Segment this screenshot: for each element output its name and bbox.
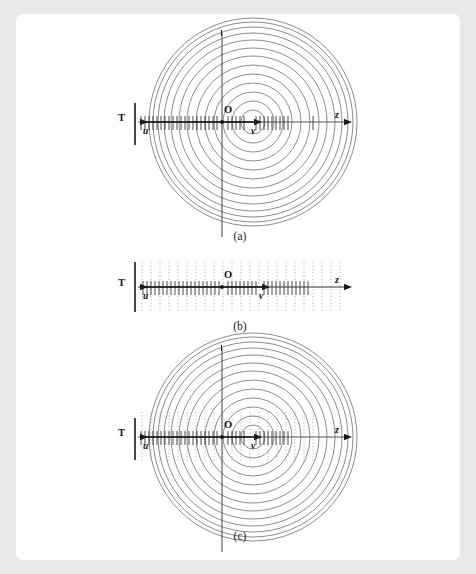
figure-diagram <box>0 0 476 574</box>
panel-a-graphic <box>135 18 357 237</box>
panel-a-screen-label: T <box>118 112 125 123</box>
panel-a-hatch-right <box>228 116 288 130</box>
panel-b-graphic <box>135 262 344 312</box>
panel-a-origin-dot <box>220 120 224 124</box>
panel-a-u-label: u <box>143 126 148 136</box>
panel-b-u-label: u <box>143 291 148 301</box>
panel-c-v-label: v <box>251 441 255 451</box>
panel-c-graphic <box>135 333 357 552</box>
panel-a-caption: (a) <box>200 230 280 242</box>
panel-b-screen-label: T <box>118 277 125 288</box>
panel-b-v-label: v <box>259 291 263 301</box>
panel-b-caption: (b) <box>200 320 280 332</box>
panel-b-origin-dot <box>220 285 224 289</box>
panel-b-z-label: z <box>335 274 339 285</box>
panel-c-z-label: z <box>335 424 339 435</box>
panel-c-origin-label: O <box>224 419 232 430</box>
panel-a-z-label: z <box>335 109 339 120</box>
panel-c-u-label: u <box>143 441 148 451</box>
panel-c-origin-dot <box>220 435 224 439</box>
panel-c-screen-label: T <box>118 427 125 438</box>
panel-a-v-label: v <box>251 126 255 136</box>
panel-b-hatch <box>143 281 308 295</box>
panel-a-origin-label: O <box>224 104 232 115</box>
panel-b-origin-label: O <box>224 269 232 280</box>
panel-c-caption: (c) <box>200 530 280 542</box>
